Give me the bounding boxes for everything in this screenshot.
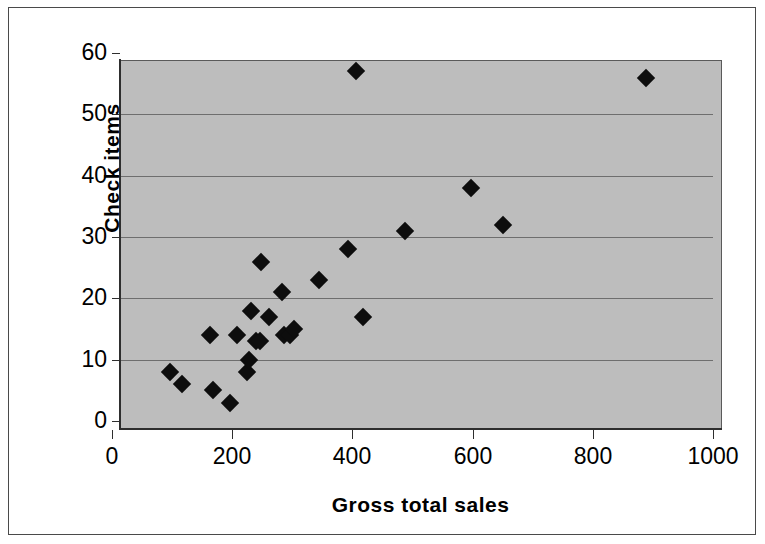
gridline-y-30 bbox=[112, 237, 713, 238]
y-tick-0 bbox=[112, 421, 120, 422]
y-tick-label-60: 60 bbox=[47, 41, 107, 64]
x-axis-line bbox=[119, 428, 722, 430]
plot-area bbox=[120, 60, 722, 429]
x-tick-label-600: 600 bbox=[413, 445, 533, 468]
x-tick-label-800: 800 bbox=[533, 445, 653, 468]
chart-figure: 0102030405060 02004006008001000 Check it… bbox=[0, 0, 765, 544]
y-tick-10 bbox=[112, 360, 120, 361]
x-tick-200 bbox=[232, 430, 233, 439]
x-tick-1000 bbox=[713, 430, 714, 439]
y-tick-label-30: 30 bbox=[47, 225, 107, 248]
x-tick-label-400: 400 bbox=[292, 445, 412, 468]
gridline-y-10 bbox=[112, 360, 713, 361]
x-tick-label-1000: 1000 bbox=[653, 445, 765, 468]
x-tick-0 bbox=[112, 430, 113, 439]
y-tick-label-20: 20 bbox=[47, 286, 107, 309]
y-axis-title: Check items bbox=[100, 63, 124, 273]
gridline-y-50 bbox=[112, 114, 713, 115]
y-tick-label-10: 10 bbox=[47, 348, 107, 371]
x-tick-800 bbox=[593, 430, 594, 439]
gridline-y-40 bbox=[112, 176, 713, 177]
figure-border: 0102030405060 02004006008001000 Check it… bbox=[8, 7, 756, 535]
x-tick-label-0: 0 bbox=[52, 445, 172, 468]
y-tick-20 bbox=[112, 298, 120, 299]
y-tick-label-0: 0 bbox=[47, 409, 107, 432]
x-axis-title: Gross total sales bbox=[120, 493, 721, 517]
y-tick-label-40: 40 bbox=[47, 164, 107, 187]
y-axis-tick-labels: 0102030405060 bbox=[39, 8, 107, 478]
gridline-y-20 bbox=[112, 298, 713, 299]
y-tick-60 bbox=[112, 53, 120, 54]
x-tick-400 bbox=[352, 430, 353, 439]
x-tick-600 bbox=[473, 430, 474, 439]
y-tick-label-50: 50 bbox=[47, 102, 107, 125]
x-tick-label-200: 200 bbox=[172, 445, 292, 468]
